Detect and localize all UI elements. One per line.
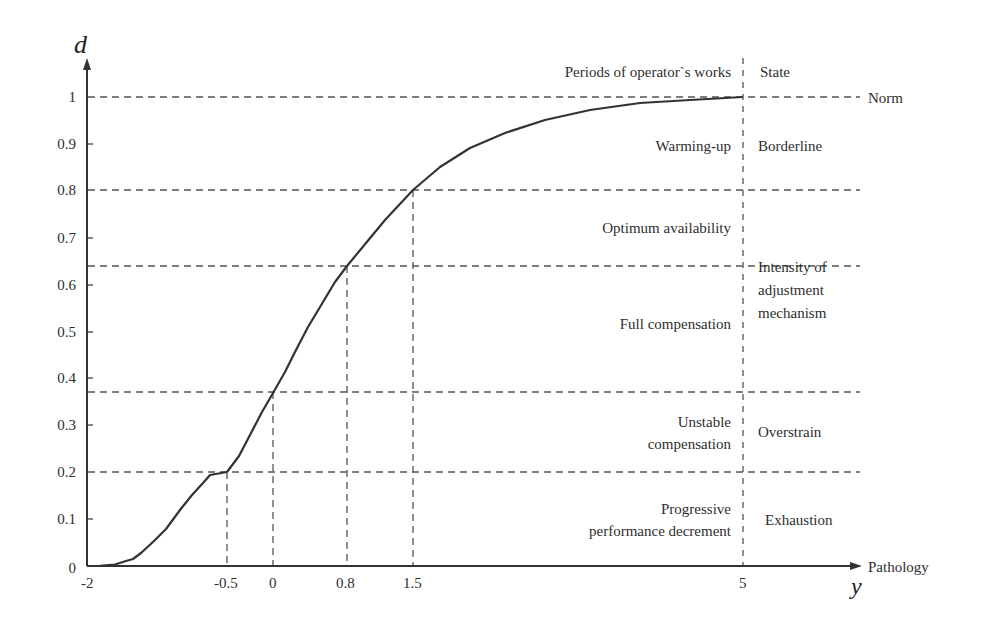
state-exhaustion: Exhaustion bbox=[765, 511, 833, 529]
pathology-label: Pathology bbox=[868, 558, 929, 576]
state-intensity-3: mechanism bbox=[758, 304, 826, 322]
zone-optimum: Optimum availability bbox=[602, 219, 731, 237]
x-tick-5: 5 bbox=[739, 574, 747, 592]
zone-full-compensation: Full compensation bbox=[620, 315, 731, 333]
zone-warming-up: Warming-up bbox=[656, 137, 731, 155]
zone-progressive-1: Progressive bbox=[661, 500, 731, 518]
state-intensity-2: adjustment bbox=[758, 281, 824, 299]
state-header: State bbox=[760, 63, 790, 81]
y-tick-0.3: 0.3 bbox=[57, 416, 76, 434]
x-tick--2: -2 bbox=[81, 574, 94, 592]
x-tick-0: 0 bbox=[269, 574, 277, 592]
y-tick-0.1: 0.1 bbox=[57, 510, 76, 528]
y-tick-0.8: 0.8 bbox=[57, 181, 76, 199]
y-tick-0.7: 0.7 bbox=[57, 229, 76, 247]
y-tick-0.6: 0.6 bbox=[57, 276, 76, 294]
y-tick-0.5: 0.5 bbox=[57, 323, 76, 341]
norm-label: Norm bbox=[868, 89, 903, 107]
x-axis-arrow-icon bbox=[850, 562, 862, 570]
state-intensity-1: Intensity of bbox=[758, 258, 827, 276]
d-axis-title: d bbox=[74, 30, 87, 60]
y-tick-0: 0 bbox=[69, 559, 77, 577]
y-axis-title: y bbox=[851, 573, 862, 600]
x-tick-0.8: 0.8 bbox=[336, 574, 355, 592]
y-tick-0.4: 0.4 bbox=[57, 369, 76, 387]
state-borderline: Borderline bbox=[758, 137, 822, 155]
chart-canvas bbox=[0, 0, 989, 629]
x-tick-1.5: 1.5 bbox=[403, 574, 422, 592]
x-tick--0.5: -0.5 bbox=[214, 574, 238, 592]
periods-header: Periods of operator`s works bbox=[565, 63, 731, 81]
zone-unstable-2: compensation bbox=[648, 435, 731, 453]
y-tick-0.9: 0.9 bbox=[57, 135, 76, 153]
zone-unstable-1: Unstable bbox=[678, 413, 731, 431]
y-tick-0.2: 0.2 bbox=[57, 463, 76, 481]
zone-progressive-2: performance decrement bbox=[589, 522, 731, 540]
y-tick-1: 1 bbox=[69, 88, 77, 106]
state-overstrain: Overstrain bbox=[758, 423, 821, 441]
